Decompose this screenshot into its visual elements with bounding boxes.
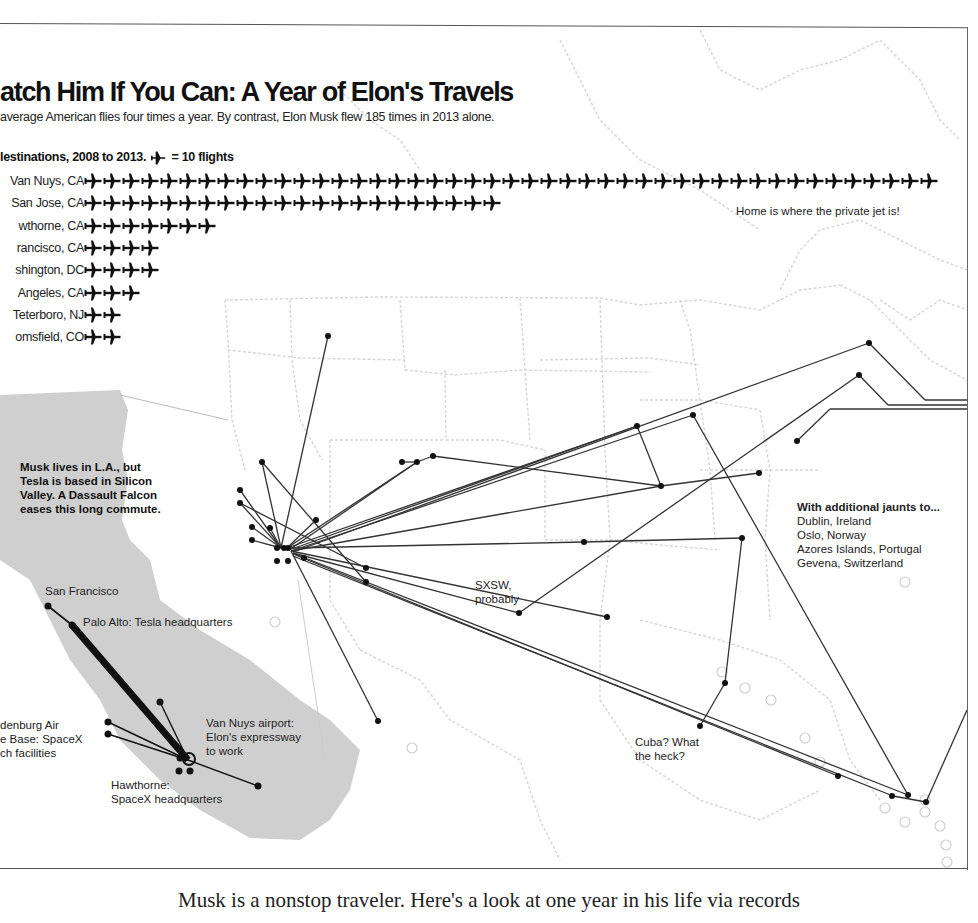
plane-icon: [768, 171, 787, 191]
plane-icon: [103, 171, 122, 191]
plane-icons: [84, 327, 122, 347]
sxsw-line: probably: [475, 592, 519, 606]
plane-icon: [151, 150, 166, 166]
plane-icons: [84, 260, 160, 280]
plane-icons: [84, 305, 122, 325]
commute-line: Tesla is based in Silicon: [20, 474, 161, 488]
plane-icon: [217, 193, 236, 213]
plane-icon: [312, 171, 331, 191]
plane-icon: [84, 216, 103, 236]
plane-icon: [141, 171, 160, 191]
inset-label-sf: San Francisco: [45, 584, 119, 598]
vandenburg-line: ch facilities: [0, 746, 82, 760]
commute-line: eases this long commute.: [20, 502, 161, 516]
plane-icon: [84, 171, 103, 191]
plane-icon: [616, 171, 635, 191]
plane-icon: [255, 171, 274, 191]
plane-icon: [806, 171, 825, 191]
coast-circles: [270, 577, 952, 867]
plane-icon: [578, 171, 597, 191]
plane-icon: [122, 238, 141, 258]
legend-scale: = 10 flights: [172, 150, 234, 164]
home-annotation: Home is where the private jet is!: [736, 205, 900, 217]
plane-icon: [825, 171, 844, 191]
plane-icon: [388, 171, 407, 191]
plane-icon: [84, 238, 103, 258]
sxsw-annotation: SXSW, probably: [475, 578, 519, 606]
plane-icon: [312, 193, 331, 213]
plane-icon: [331, 193, 350, 213]
plane-icon: [464, 171, 483, 191]
plane-icon: [84, 305, 103, 325]
plane-icon: [236, 171, 255, 191]
hawthorne-line: Hawthorne:: [111, 778, 222, 792]
plane-icon: [255, 193, 274, 213]
pictograph-row: wthorne, CA: [0, 215, 217, 237]
plane-icon: [274, 171, 293, 191]
plane-icon: [103, 260, 122, 280]
plane-icon: [844, 171, 863, 191]
plane-icon: [635, 171, 654, 191]
plane-icon: [122, 171, 141, 191]
vandenburg-line: e Base: SpaceX: [0, 732, 82, 746]
plane-icon: [141, 238, 160, 258]
plane-icon: [236, 193, 255, 213]
plane-icon: [711, 171, 730, 191]
plane-icon: [920, 171, 939, 191]
plane-icon: [597, 171, 616, 191]
plane-icon: [198, 193, 217, 213]
plane-icon: [882, 171, 901, 191]
van-nuys-line: Elon's expressway: [206, 730, 301, 744]
plane-icon: [179, 193, 198, 213]
plane-icon: [217, 171, 236, 191]
plane-icon: [198, 216, 217, 236]
plane-icon: [521, 171, 540, 191]
plane-icon: [141, 193, 160, 213]
plane-icons: [84, 193, 502, 213]
pictograph-row: omsfield, CO: [0, 326, 122, 348]
plane-icon: [84, 327, 103, 347]
plane-icon: [198, 171, 217, 191]
plane-icon: [122, 283, 141, 303]
hawthorne-line: SpaceX headquarters: [111, 792, 222, 806]
cuba-annotation: Cuba? What the heck?: [635, 735, 699, 763]
plane-icon: [540, 171, 559, 191]
jaunt-item: Azores Islands, Portugal: [797, 542, 940, 556]
plane-icon: [369, 193, 388, 213]
plane-icon: [331, 171, 350, 191]
cuba-line: the heck?: [635, 749, 699, 763]
cuba-line: Cuba? What: [635, 735, 699, 749]
row-label: San Jose, CA: [0, 196, 84, 210]
jaunt-item: Oslo, Norway: [797, 528, 940, 542]
plane-icon: [407, 193, 426, 213]
plane-icon: [84, 260, 103, 280]
plane-icon: [502, 171, 521, 191]
row-label: Teterboro, NJ: [0, 308, 84, 322]
plane-icon: [445, 171, 464, 191]
plane-icons: [84, 171, 939, 191]
plane-icon: [730, 171, 749, 191]
plane-icon: [445, 193, 464, 213]
jaunts-annotation: With additional jaunts to... Dublin, Ire…: [797, 500, 940, 570]
chart-subtitle: average American flies four times a year…: [0, 110, 494, 124]
plane-icons: [84, 283, 141, 303]
frame-right-rule: [967, 27, 968, 870]
plane-icon: [160, 216, 179, 236]
legend: lestinations, 2008 to 2013. = 10 flights: [0, 150, 234, 166]
plane-icon: [483, 193, 502, 213]
pictograph-row: Teterboro, NJ: [0, 304, 122, 326]
frame-bottom-rule: [0, 868, 968, 869]
van-nuys-line: to work: [206, 744, 301, 758]
row-label: Angeles, CA: [0, 286, 84, 300]
plane-icon: [84, 283, 103, 303]
vandenburg-line: denburg Air: [0, 718, 82, 732]
plane-icon: [293, 193, 312, 213]
plane-icon: [293, 171, 312, 191]
pictograph-row: Van Nuys, CA: [0, 170, 939, 192]
plane-icons: [84, 238, 160, 258]
plane-icon: [749, 171, 768, 191]
plane-icon: [654, 171, 673, 191]
plane-icon: [103, 305, 122, 325]
article-caption: Musk is a nonstop traveler. Here's a loo…: [0, 888, 978, 913]
inset-label-palo-alto: Palo Alto: Tesla headquarters: [83, 615, 232, 629]
